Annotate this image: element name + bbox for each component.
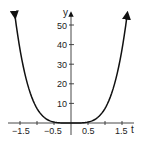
x-tick-label: −0.5 bbox=[44, 126, 62, 136]
y-tick-label: 10 bbox=[57, 99, 67, 109]
y-ticks bbox=[69, 25, 74, 103]
y-tick-label: 50 bbox=[57, 21, 67, 31]
y-tick-label: 20 bbox=[57, 79, 67, 89]
chart: −1.5 −0.5 0.5 1.5 10 20 30 40 50 y t bbox=[0, 0, 142, 144]
x-tick-label: 0.5 bbox=[82, 126, 95, 136]
x-axis-label: t bbox=[131, 124, 134, 135]
x-tick-label: −1.5 bbox=[12, 126, 30, 136]
y-tick-label: 40 bbox=[57, 40, 67, 50]
y-tick-label: 30 bbox=[57, 60, 67, 70]
y-axis-label: y bbox=[63, 7, 68, 18]
x-tick-label: 1.5 bbox=[115, 126, 128, 136]
